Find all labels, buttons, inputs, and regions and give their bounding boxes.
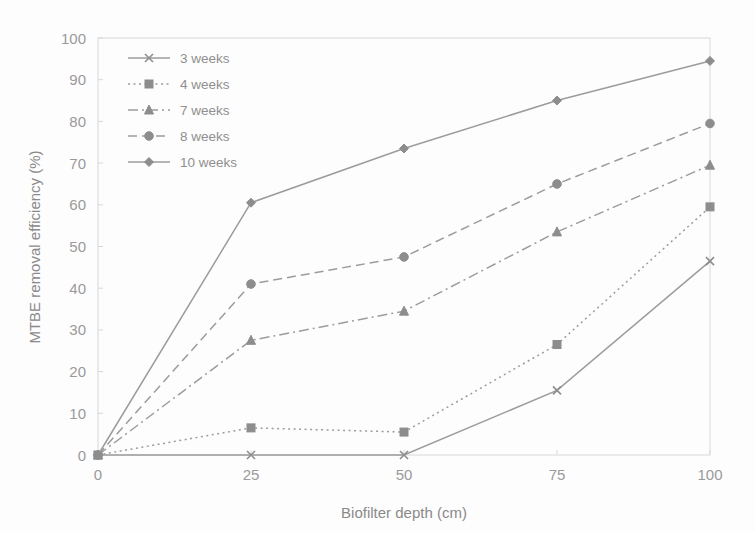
data-point-marker	[400, 253, 409, 262]
data-point-marker	[553, 227, 562, 236]
y-tick-label: 40	[69, 280, 86, 297]
data-point-marker	[400, 428, 408, 436]
data-point-marker	[553, 96, 562, 105]
x-tick-label: 50	[396, 466, 413, 483]
y-tick-label: 0	[78, 447, 86, 464]
data-point-marker	[400, 306, 409, 315]
y-axis-tick-labels: 0102030405060708090100	[61, 30, 86, 464]
legend-marker	[145, 80, 153, 88]
x-tick-label: 25	[243, 466, 260, 483]
y-tick-label: 10	[69, 405, 86, 422]
y-tick-label: 30	[69, 321, 86, 338]
axis-ticks	[98, 38, 710, 455]
data-point-marker	[706, 56, 715, 65]
legend-item-4-weeks: 4 weeks	[128, 77, 230, 92]
legend-marker	[145, 158, 154, 167]
data-point-marker	[706, 203, 714, 211]
series-4-weeks	[94, 203, 714, 459]
y-tick-label: 100	[61, 30, 86, 47]
data-point-marker	[553, 340, 561, 348]
legend-item-8-weeks: 8 weeks	[128, 129, 230, 144]
x-axis-title: Biofilter depth (cm)	[341, 504, 467, 521]
x-axis-tick-labels: 0255075100	[94, 466, 723, 483]
series-polyline	[98, 207, 710, 455]
data-point-marker	[400, 144, 409, 153]
plot-area-border	[98, 38, 710, 455]
x-tick-label: 0	[94, 466, 102, 483]
series-8-weeks	[94, 119, 715, 459]
y-tick-label: 70	[69, 155, 86, 172]
y-tick-label: 20	[69, 363, 86, 380]
data-point-marker	[247, 280, 256, 289]
chart-legend: 3 weeks4 weeks7 weeks8 weeks10 weeks	[128, 51, 237, 170]
data-point-marker	[553, 180, 562, 189]
legend-label: 8 weeks	[180, 129, 230, 144]
legend-item-10-weeks: 10 weeks	[128, 155, 237, 170]
plot-frame	[98, 38, 710, 455]
data-point-marker	[247, 424, 255, 432]
data-point-marker	[706, 160, 715, 169]
y-tick-label: 60	[69, 196, 86, 213]
legend-marker	[145, 132, 154, 141]
legend-label: 10 weeks	[180, 155, 237, 170]
legend-label: 3 weeks	[180, 51, 230, 66]
x-tick-label: 100	[697, 466, 722, 483]
data-point-marker	[706, 119, 715, 128]
legend-label: 4 weeks	[180, 77, 230, 92]
y-axis-title: MTBE removal efficiency (%)	[26, 150, 43, 343]
legend-item-7-weeks: 7 weeks	[128, 103, 230, 118]
chart-container: 0102030405060708090100 0255075100 3 week…	[0, 0, 755, 533]
data-point-marker	[553, 386, 561, 394]
x-tick-label: 75	[549, 466, 566, 483]
y-tick-label: 90	[69, 71, 86, 88]
y-tick-label: 80	[69, 113, 86, 130]
line-chart: 0102030405060708090100 0255075100 3 week…	[0, 0, 755, 533]
legend-label: 7 weeks	[180, 103, 230, 118]
data-point-marker	[247, 198, 256, 207]
legend-item-3-weeks: 3 weeks	[128, 51, 230, 66]
y-tick-label: 50	[69, 238, 86, 255]
